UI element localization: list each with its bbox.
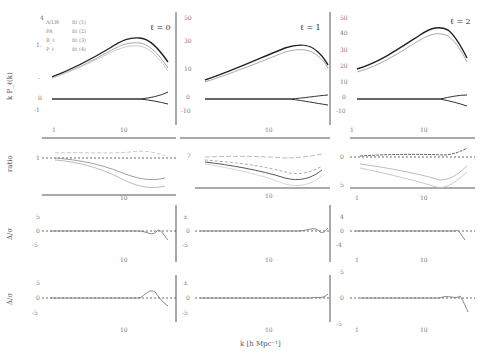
svg-text:0: 0	[342, 93, 346, 100]
svg-text:10: 10	[120, 256, 128, 263]
svg-text:-5: -5	[336, 320, 342, 327]
title-l2: ℓ = 2	[450, 17, 471, 26]
panel-row4-l1: ± 0 -5 10	[182, 275, 330, 333]
svg-text:1: 1	[36, 154, 40, 161]
svg-text:Λ/LW: Λ/LW	[45, 19, 60, 25]
panel-row2-l2: 0 5 1 10	[340, 138, 475, 201]
svg-text:50: 50	[340, 14, 348, 21]
panel-row1-l1: ℓ = 1 50 30 10 0 -10	[181, 12, 330, 125]
svg-text:0: 0	[36, 294, 40, 301]
svg-text:Δ/σ: Δ/σ	[6, 293, 14, 305]
svg-text:50: 50	[184, 14, 192, 21]
x-axis-label: k [h Mpc⁻¹]	[240, 340, 281, 348]
svg-text:10: 10	[265, 192, 273, 199]
panel-row3-l2: 4 0 -4 1 10	[336, 213, 475, 263]
figure: ℓ = 0 4 1. - 0 -1 Λ/LW PA B_ℓ P_ℓ fit (1…	[0, 0, 486, 362]
svg-text:1: 1	[355, 326, 359, 333]
svg-text:0: 0	[340, 294, 344, 301]
svg-text:5: 5	[36, 279, 40, 286]
svg-text:10: 10	[265, 256, 273, 263]
svg-text:10: 10	[120, 326, 128, 333]
svg-text:-5: -5	[32, 241, 38, 248]
svg-text:-4: -4	[336, 241, 342, 248]
svg-text:±: ±	[183, 213, 188, 220]
panel-row2-l0: 1 10 ratio	[6, 138, 176, 201]
svg-text:5: 5	[340, 181, 344, 188]
svg-text:0: 0	[186, 294, 190, 301]
svg-text:4: 4	[40, 14, 44, 21]
svg-text:0: 0	[340, 227, 344, 234]
svg-text:10: 10	[420, 126, 428, 133]
panel-row1-l2: ℓ = 2 50 40 30 20 10 0 -10	[336, 14, 471, 114]
panel-row3-l0: 5 0 -5 10 Δ/σ	[6, 205, 176, 263]
svg-text:10: 10	[120, 194, 128, 201]
svg-text:0: 0	[36, 227, 40, 234]
svg-text:P_ℓ: P_ℓ	[46, 46, 54, 53]
svg-text:-1: -1	[34, 106, 40, 113]
svg-text:ratio: ratio	[6, 155, 14, 172]
svg-text:fit (1): fit (1)	[72, 19, 86, 25]
svg-text:10: 10	[340, 78, 348, 85]
svg-text:30: 30	[340, 46, 348, 53]
panel-row1-l0: ℓ = 0 4 1. - 0 -1 Λ/LW PA B_ℓ P_ℓ fit (1…	[34, 12, 176, 125]
svg-text:5: 5	[340, 268, 344, 275]
svg-text:4: 4	[340, 213, 344, 220]
svg-text:-5: -5	[182, 241, 188, 248]
svg-text:10: 10	[120, 126, 128, 133]
svg-text:±: ±	[183, 279, 188, 286]
title-l0: ℓ = 0	[150, 23, 171, 32]
svg-text:10: 10	[184, 65, 192, 72]
svg-text:1: 1	[52, 126, 56, 133]
svg-text:fit (3): fit (3)	[72, 37, 86, 43]
y-axis-label-row1: k P_ℓ(k)	[6, 72, 14, 100]
svg-text:1.: 1.	[36, 41, 42, 48]
svg-text:0: 0	[186, 227, 190, 234]
panel-row2-l1: 7 10	[180, 138, 330, 199]
svg-text:Δ/σ: Δ/σ	[6, 228, 14, 240]
svg-text:20: 20	[340, 62, 348, 69]
svg-text:PA: PA	[46, 28, 53, 34]
svg-text:0: 0	[186, 93, 190, 100]
title-l1: ℓ = 1	[300, 23, 321, 32]
svg-text:30: 30	[184, 37, 192, 44]
panel-row4-l2: 5 0 -5 1 10	[336, 268, 475, 333]
svg-text:1: 1	[355, 194, 359, 201]
svg-text:-: -	[38, 74, 40, 81]
svg-text:fit (2): fit (2)	[72, 28, 86, 34]
panel-row3-l1: ± 0 -5 10	[182, 205, 330, 263]
svg-text:10: 10	[420, 326, 428, 333]
svg-text:10: 10	[265, 326, 273, 333]
svg-text:40: 40	[340, 29, 348, 36]
svg-text:1: 1	[350, 126, 354, 133]
svg-text:10: 10	[265, 126, 273, 133]
svg-text:-5: -5	[32, 309, 38, 316]
svg-text:-5: -5	[182, 309, 188, 316]
svg-text:0: 0	[38, 94, 42, 101]
svg-text:10: 10	[420, 194, 428, 201]
svg-text:fit (4): fit (4)	[72, 46, 86, 52]
svg-text:0: 0	[340, 153, 344, 160]
svg-text:-10: -10	[336, 107, 346, 114]
svg-text:10: 10	[420, 256, 428, 263]
svg-text:5: 5	[36, 213, 40, 220]
panel-row4-l0: 5 0 -5 10 Δ/σ	[6, 275, 176, 333]
svg-text:7: 7	[187, 152, 191, 159]
svg-text:1: 1	[355, 256, 359, 263]
svg-text:-10: -10	[181, 107, 191, 114]
svg-text:B_ℓ: B_ℓ	[46, 37, 55, 44]
